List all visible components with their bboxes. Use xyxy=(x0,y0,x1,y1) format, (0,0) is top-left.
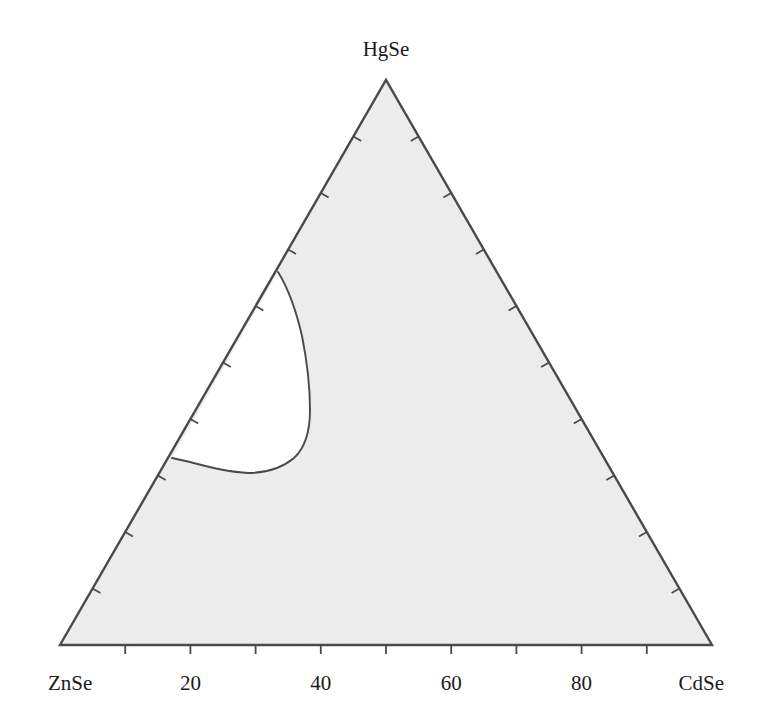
shaded-region-group xyxy=(60,80,712,645)
bottom-axis-tick-labels: 20406080 xyxy=(180,671,592,695)
miscibility-gap-fill xyxy=(172,272,310,473)
shaded-single-phase-region xyxy=(60,80,712,645)
bottom-axis-tick-label: 40 xyxy=(310,671,331,695)
ternary-diagram-svg: 20406080 HgSe ZnSe CdSe xyxy=(0,0,780,716)
bottom-axis-tick-label: 20 xyxy=(180,671,201,695)
vertex-label-znse: ZnSe xyxy=(48,671,92,695)
ternary-phase-diagram: 20406080 HgSe ZnSe CdSe xyxy=(0,0,780,716)
vertex-label-hgse: HgSe xyxy=(363,37,410,61)
bottom-axis-tick-label: 80 xyxy=(571,671,592,695)
bottom-axis-tick-label: 60 xyxy=(441,671,462,695)
bottom-axis-ticks xyxy=(125,645,647,654)
vertex-label-cdse: CdSe xyxy=(678,671,724,695)
miscibility-gap-region xyxy=(172,272,310,473)
